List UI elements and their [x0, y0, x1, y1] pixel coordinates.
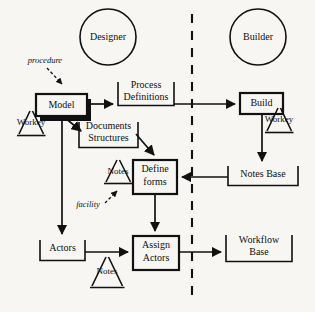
node-label-workflow-base-line1: Workflow: [239, 234, 280, 245]
triangle-label-notes-actors: Notes: [97, 266, 118, 276]
node-label-build: Build: [250, 97, 272, 108]
node-label-assign-actors-line1: Assign: [142, 239, 170, 250]
node-label-notes-base: Notes Base: [240, 168, 286, 179]
annotation-facility: facility: [76, 199, 100, 209]
node-label-workflow-base-line2: Base: [249, 246, 269, 257]
workflow-diagram: Designer Builder procedure Model Workey …: [0, 0, 315, 312]
role-label-builder: Builder: [243, 31, 274, 42]
role-label-designer: Designer: [90, 31, 127, 42]
node-label-actors: Actors: [49, 242, 76, 253]
node-label-define-forms-line1: Define: [141, 163, 169, 174]
diagram-canvas: Designer Builder procedure Model Workey …: [0, 0, 315, 312]
node-label-documents-structures-line1: Documents: [86, 120, 132, 131]
node-label-model: Model: [48, 99, 74, 110]
node-label-documents-structures-line2: Structures: [88, 132, 129, 143]
triangle-label-workey-left: Workey: [17, 117, 46, 127]
node-label-process-definitions-line2: Definitions: [124, 91, 169, 102]
node-label-process-definitions-line1: Process: [131, 79, 162, 90]
node-label-define-forms-line2: forms: [143, 176, 166, 187]
triangle-label-workey-right: Workey: [265, 114, 294, 124]
node-label-assign-actors-line2: Actors: [143, 252, 170, 263]
annotation-procedure: procedure: [27, 55, 63, 65]
triangle-label-notes-forms: Notes: [108, 166, 129, 176]
